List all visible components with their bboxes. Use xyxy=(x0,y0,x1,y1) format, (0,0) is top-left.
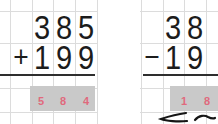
answer-digit: 5 xyxy=(38,96,44,107)
pencil-handwriting-marks xyxy=(148,110,218,124)
plus-operator: + xyxy=(13,42,28,72)
answer-rule-line xyxy=(0,74,95,76)
answer-digit: 4 xyxy=(83,96,89,107)
grid-line xyxy=(10,0,11,124)
worksheet: 3 8 5 + 1 9 9 5 8 4 3 8 − 1 9 xyxy=(0,0,218,124)
bottom-digit: 9 xyxy=(56,41,72,74)
grid-line xyxy=(141,0,142,124)
grid-line xyxy=(0,112,97,113)
grid-line xyxy=(97,0,98,124)
answer-digit: 1 xyxy=(181,96,187,107)
pencil-squiggle xyxy=(161,113,187,121)
bottom-digit: 9 xyxy=(78,41,94,74)
answer-digit: 8 xyxy=(60,96,66,107)
answer-rule-line xyxy=(143,74,218,76)
bottom-digit: 1 xyxy=(34,41,50,74)
bottom-digit: 1 xyxy=(165,41,181,74)
bottom-digit: 9 xyxy=(187,41,203,74)
minus-operator: − xyxy=(144,42,159,72)
pencil-dash xyxy=(195,116,215,120)
answer-digit: 8 xyxy=(204,96,210,107)
answer-box[interactable] xyxy=(170,86,218,111)
grid-line xyxy=(163,0,164,124)
